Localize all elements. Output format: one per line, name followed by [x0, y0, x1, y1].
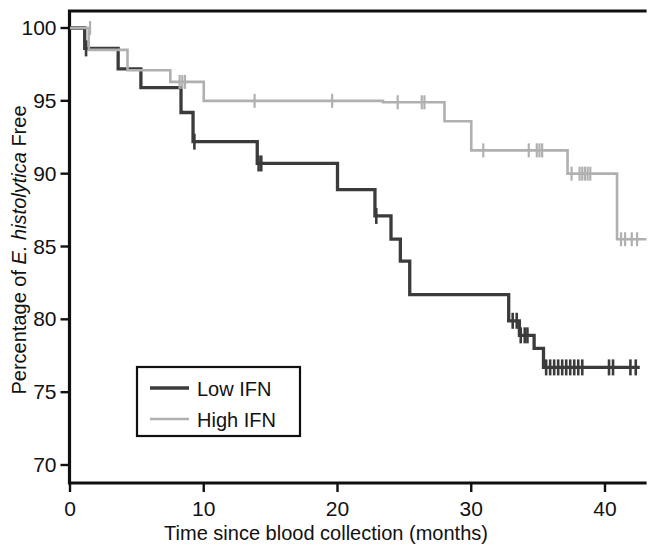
x-tick-label: 30: [460, 497, 483, 520]
y-tick-label: 70: [33, 453, 56, 476]
y-tick-label: 90: [33, 162, 56, 185]
series-line-high-ifn: [70, 28, 646, 239]
y-tick-label: 100: [21, 16, 56, 39]
x-axis-title: Time since blood collection (months): [164, 522, 488, 544]
series-layer: [70, 28, 646, 367]
y-axis-title-species: E. histolytica: [8, 152, 30, 264]
chart-legend: Low IFNHigh IFN: [137, 367, 300, 436]
x-tick-label: 20: [326, 497, 349, 520]
y-tick-label: 75: [33, 380, 56, 403]
legend-label-high-ifn: High IFN: [197, 409, 276, 431]
censor-marks-layer: [86, 21, 637, 375]
x-axis-ticks: 010203040: [64, 483, 617, 520]
x-tick-label: 0: [64, 497, 76, 520]
kaplan-meier-figure: 707580859095100 010203040 Low IFNHigh IF…: [0, 0, 653, 547]
y-axis-title: Percentage of E. histolytica Free: [8, 105, 30, 394]
legend-label-low-ifn: Low IFN: [197, 378, 271, 400]
chart-canvas: 707580859095100 010203040 Low IFNHigh IF…: [0, 0, 653, 547]
y-tick-label: 95: [33, 89, 56, 112]
x-tick-label: 10: [192, 497, 215, 520]
y-tick-label: 80: [33, 307, 56, 330]
x-tick-label: 40: [593, 497, 616, 520]
y-axis-title-prefix: Percentage of: [8, 264, 30, 394]
y-axis-title-suffix: Free: [8, 105, 30, 152]
y-tick-label: 85: [33, 235, 56, 258]
series-line-low-ifn: [70, 28, 640, 367]
